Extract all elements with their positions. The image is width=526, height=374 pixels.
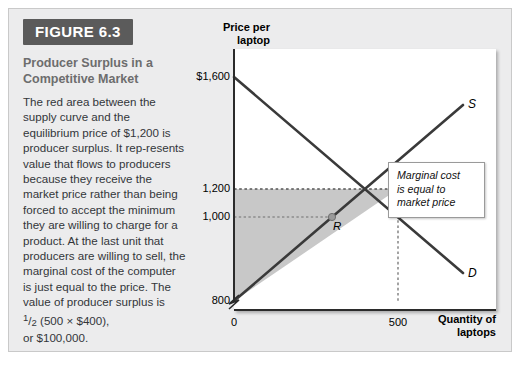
x-axis-title-line2: laptops: [457, 326, 496, 338]
figure-title: Producer Surplus in a Competitive Market: [23, 56, 173, 87]
y-axis-title: Price per laptop: [192, 21, 270, 47]
figure-number-banner: FIGURE 6.3: [23, 19, 133, 45]
y-tick-1600: $1,600: [174, 70, 230, 82]
supply-curve-label: S: [468, 97, 476, 111]
point-r-label: R: [333, 220, 341, 232]
x-tick-0: 0: [222, 316, 246, 328]
callout-line-1: Marginal cost: [397, 169, 460, 181]
marginal-cost-callout: Marginal cost is equal to market price: [388, 162, 485, 218]
producer-surplus-region: [234, 189, 398, 301]
x-tick-500: 500: [384, 316, 412, 328]
chart-container: Price per laptop Quantity of laptops $1,…: [198, 21, 498, 339]
callout-line-3: market price: [397, 196, 455, 208]
caption-formula-text: (500 × $400),: [37, 313, 110, 326]
y-axis-title-line2: laptop: [237, 34, 270, 46]
caption-body-text: The red area between the supply curve an…: [23, 95, 185, 308]
x-axis-title: Quantity of laptops: [348, 313, 496, 339]
y-tick-800: 800: [174, 294, 230, 306]
caption-total-text: or $100,000.: [23, 331, 88, 344]
caption-column: FIGURE 6.3 Producer Surplus in a Competi…: [23, 19, 191, 345]
callout-line-2: is equal to: [397, 183, 445, 195]
y-tick-1000: 1,000: [174, 210, 230, 222]
demand-curve-label: D: [468, 266, 477, 280]
figure-caption: The red area between the supply curve an…: [23, 94, 186, 345]
y-axis-title-line1: Price per: [223, 21, 270, 33]
x-axis-title-line1: Quantity of: [438, 313, 496, 325]
figure-panel: FIGURE 6.3 Producer Surplus in a Competi…: [8, 8, 512, 352]
y-tick-1200: 1,200: [174, 182, 230, 194]
